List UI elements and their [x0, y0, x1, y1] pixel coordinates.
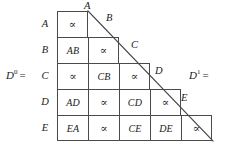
cell-c-2: CB — [88, 63, 119, 89]
cell-a-1: ∝ — [57, 11, 88, 37]
cell-e-4: DE — [150, 115, 181, 141]
cell-c-1: ∝ — [57, 63, 88, 89]
staircase-grid: ∝ AB ∝ ∝ CB ∝ AD ∝ CD ∝ EA ∝ CE DE ∝ — [57, 11, 212, 141]
cell-e-3: CE — [119, 115, 150, 141]
cell-d-4: ∝ — [150, 89, 181, 115]
cell-d-2: ∝ — [88, 89, 119, 115]
cell-b-2: ∝ — [88, 37, 119, 63]
row-label-b: B — [38, 45, 52, 56]
table-row: EA ∝ CE DE ∝ — [57, 115, 212, 141]
row-label-c: C — [38, 71, 52, 82]
triangular-matrix-figure: D0= D1= A B C D E A B C D E ∝ AB ∝ ∝ CB … — [0, 0, 227, 151]
table-row: ∝ CB ∝ — [57, 63, 212, 89]
cell-e-1: EA — [57, 115, 88, 141]
row-label-e: E — [38, 123, 52, 134]
left-equation-base: D — [6, 69, 14, 81]
left-equation-label: D0= — [6, 69, 26, 81]
left-equation-equals: = — [17, 69, 25, 81]
cell-b-1: AB — [57, 37, 88, 63]
cell-d-3: CD — [119, 89, 150, 115]
table-row: AB ∝ — [57, 37, 212, 63]
table-row: ∝ — [57, 11, 212, 37]
cell-c-3: ∝ — [119, 63, 150, 89]
cell-e-2: ∝ — [88, 115, 119, 141]
cell-e-5: ∝ — [181, 115, 212, 141]
row-label-d: D — [38, 97, 52, 108]
cell-d-1: AD — [57, 89, 88, 115]
row-label-a: A — [38, 19, 52, 30]
table-row: AD ∝ CD ∝ — [57, 89, 212, 115]
diagonal-label-a: A — [84, 1, 90, 12]
